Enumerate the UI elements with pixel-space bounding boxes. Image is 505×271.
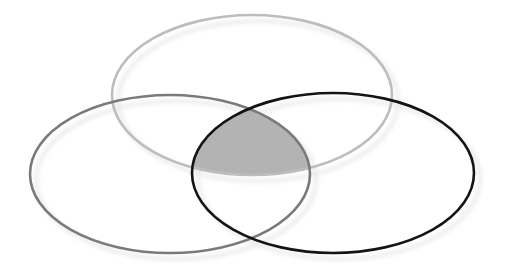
venn-diagram bbox=[0, 0, 505, 271]
